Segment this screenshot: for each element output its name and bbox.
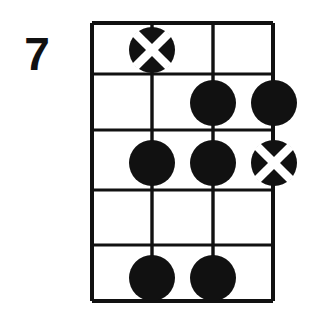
marker-dot-string2-fret5-circle <box>129 255 175 301</box>
marker-dot-string3-fret3-circle <box>190 140 236 186</box>
marker-dot-string4-fret2-circle <box>251 80 297 126</box>
marker-dot-string3-fret5-circle <box>190 255 236 301</box>
fret-lines-group <box>92 23 273 301</box>
marker-x-string4-fret3 <box>251 140 297 186</box>
fretboard-grid <box>0 0 317 324</box>
string-lines-group <box>92 23 273 301</box>
marker-x-string1-fret1 <box>129 27 175 73</box>
chord-diagram: 7 <box>0 0 317 324</box>
marker-dot-string2-fret3 <box>129 140 175 186</box>
marker-dot-string2-fret5 <box>129 255 175 301</box>
marker-dot-string3-fret5 <box>190 255 236 301</box>
marker-dot-string4-fret2 <box>251 80 297 126</box>
marker-dot-string3-fret2-circle <box>190 80 236 126</box>
marker-dot-string2-fret3-circle <box>129 140 175 186</box>
marker-dot-string3-fret3 <box>190 140 236 186</box>
marker-dot-string3-fret2 <box>190 80 236 126</box>
